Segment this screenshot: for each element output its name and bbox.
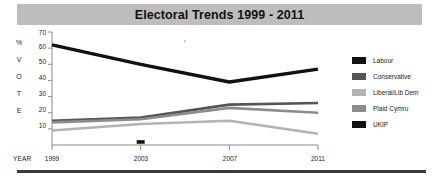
x-tick-label-2007: 2007 <box>213 155 247 162</box>
legend-label-liberal-lib-dem: Liberal/Lib Dem <box>373 89 419 96</box>
legend-swatch-icon-ukip <box>352 121 366 128</box>
legend-item-plaid-cymru: Plaid Cymru <box>352 100 432 116</box>
axis-lines <box>48 32 318 150</box>
legend-label-ukip: UKIP <box>373 121 388 128</box>
legend-swatch-icon-labour <box>352 57 366 64</box>
chart-title-banner: Electoral Trends 1999 - 2011 <box>17 4 422 25</box>
legend-swatch-icon-plaid-cymru <box>352 105 366 112</box>
legend-label-conservative: Conservative <box>373 73 411 80</box>
legend-item-ukip: UKIP <box>352 116 432 132</box>
legend-item-labour: Labour <box>352 52 432 68</box>
chart-page: Electoral Trends 1999 - 2011 % V O T E 7… <box>0 0 433 177</box>
x-axis-caption: YEAR <box>13 155 32 162</box>
legend-swatch-icon-liberal-lib-dem <box>352 89 366 96</box>
chart-legend: Labour Conservative Liberal/Lib Dem Plai… <box>352 52 432 132</box>
bottom-divider <box>17 170 426 173</box>
x-tick-label-2011: 2011 <box>301 155 335 162</box>
data-series-layer <box>52 45 318 144</box>
legend-swatch-icon-conservative <box>352 73 366 80</box>
x-tick-label-1999: 1999 <box>35 155 69 162</box>
legend-label-labour: Labour <box>373 57 393 64</box>
x-tick-label-2003: 2003 <box>124 155 158 162</box>
page-title: Electoral Trends 1999 - 2011 <box>135 8 305 22</box>
legend-item-liberal-lib-dem: Liberal/Lib Dem <box>352 84 432 100</box>
legend-label-plaid-cymru: Plaid Cymru <box>373 105 408 112</box>
legend-item-conservative: Conservative <box>352 68 432 84</box>
